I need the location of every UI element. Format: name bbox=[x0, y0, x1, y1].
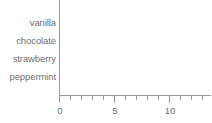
x-tick-minor-2 bbox=[81, 96, 82, 100]
category-label-chocolate: chocolate bbox=[0, 36, 56, 46]
category-label-peppermint: peppermint bbox=[0, 72, 56, 82]
x-tick-minor-6 bbox=[125, 96, 126, 100]
category-label-vanilla: vanilla bbox=[0, 18, 56, 28]
category-label-strawberry: strawberry bbox=[0, 54, 56, 64]
x-tick-major-10 bbox=[169, 96, 170, 103]
x-tick-label-10: 10 bbox=[165, 105, 176, 116]
x-tick-minor-8 bbox=[147, 96, 148, 100]
x-tick-minor-11 bbox=[180, 96, 181, 100]
x-tick-major-0 bbox=[59, 96, 60, 103]
y-axis-line bbox=[59, 0, 60, 95]
x-tick-minor-3 bbox=[92, 96, 93, 100]
plot-area bbox=[60, 0, 211, 95]
x-tick-minor-13 bbox=[202, 96, 203, 100]
x-tick-label-5: 5 bbox=[112, 105, 117, 116]
x-tick-label-0: 0 bbox=[57, 105, 62, 116]
x-tick-minor-7 bbox=[136, 96, 137, 100]
x-tick-minor-4 bbox=[103, 96, 104, 100]
category-axis-labels: vanilla chocolate strawberry peppermint bbox=[0, 0, 56, 95]
x-tick-minor-1 bbox=[70, 96, 71, 100]
bar-chart: vanilla chocolate strawberry peppermint … bbox=[0, 0, 212, 123]
x-tick-minor-12 bbox=[191, 96, 192, 100]
x-tick-minor-9 bbox=[158, 96, 159, 100]
x-tick-major-5 bbox=[114, 96, 115, 103]
